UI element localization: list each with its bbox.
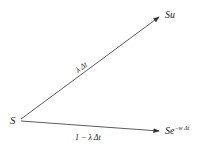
up-branch-arrow	[21, 17, 159, 119]
down-branch-arrow	[21, 121, 159, 131]
down-edge-label: 1 − λ Δt	[75, 133, 101, 142]
root-node-label: S	[10, 114, 16, 126]
up-edge-label: λ Δt	[73, 60, 90, 76]
tree-diagram: S Su Se−w Δt λ Δt 1 − λ Δt	[0, 0, 210, 151]
down-node-label: Se−w Δt	[165, 125, 190, 136]
up-node-label: Su	[165, 9, 175, 20]
